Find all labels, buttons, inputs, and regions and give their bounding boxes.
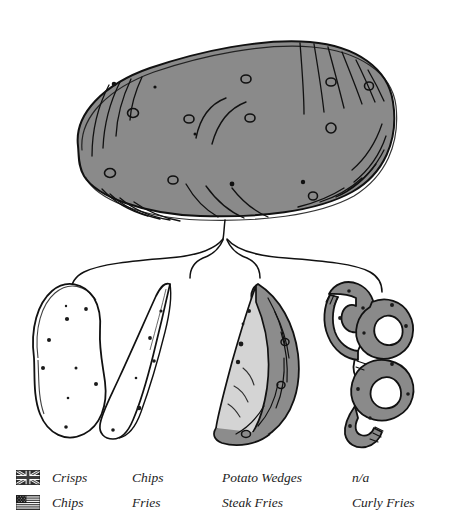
legend-cell-potato-wedges: Potato Wedges xyxy=(222,470,302,485)
figure-page: Potato Cut Guide xyxy=(0,0,450,529)
legend-cell-chips-us: Chips xyxy=(52,495,84,510)
item-crisps-illustration xyxy=(33,284,106,438)
item-wedges-illustration xyxy=(214,284,299,445)
brace-stem xyxy=(223,220,225,239)
item-curly-illustration xyxy=(324,282,413,447)
legend-row: Chips Fries Steak Fries Curly Fries xyxy=(0,491,450,513)
us-flag-icon xyxy=(16,495,40,510)
brace-arm-outer-left xyxy=(71,239,223,292)
legend-row: Crisps Chips Potato Wedges n/a xyxy=(0,466,450,488)
brace-arm-inner-left xyxy=(190,240,223,278)
legend-cell-fries: Fries xyxy=(132,495,161,510)
brace-arm-inner-right xyxy=(227,240,260,278)
uk-flag-icon xyxy=(16,470,40,485)
potato-cuts-diagram xyxy=(0,6,450,456)
legend: Crisps Chips Potato Wedges n/a xyxy=(0,462,450,522)
legend-cell-steak-fries: Steak Fries xyxy=(222,495,283,510)
item-chips-illustration xyxy=(100,284,171,440)
legend-cell-na: n/a xyxy=(352,470,369,485)
page-title: Potato Cut Guide xyxy=(0,0,450,3)
legend-cell-curly-fries: Curly Fries xyxy=(352,495,415,510)
legend-cell-chips-uk: Chips xyxy=(132,470,164,485)
whole-potato-illustration xyxy=(78,41,397,221)
fry-outline xyxy=(100,284,170,440)
distribution-brace xyxy=(71,220,382,292)
legend-cell-crisps: Crisps xyxy=(52,470,87,485)
